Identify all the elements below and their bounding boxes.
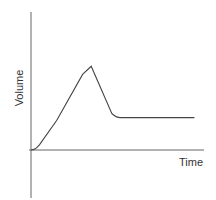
volume-curve	[31, 66, 194, 150]
y-axis-label: Volume	[13, 68, 25, 108]
chart-canvas	[0, 0, 216, 200]
x-axis-label: Time	[179, 156, 203, 168]
